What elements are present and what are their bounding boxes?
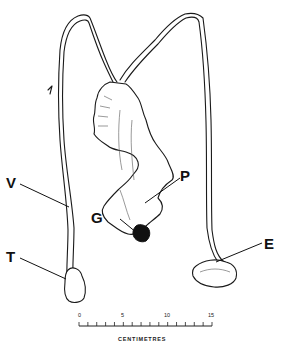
leader-V [20, 184, 69, 207]
scale-bar: 0 5 10 15 CENTIMETRES [78, 312, 214, 342]
label-G: G [91, 209, 103, 226]
scale-unit-label: CENTIMETRES [118, 336, 166, 342]
dark-terminal-G [133, 225, 150, 242]
anatomical-diagram: V P G T E 0 5 10 15 CENTIMETRES [0, 0, 288, 344]
left-terminal-T [65, 268, 86, 302]
label-T: T [6, 248, 15, 265]
label-P: P [180, 167, 190, 184]
right-terminal-E [193, 260, 237, 287]
leader-E [216, 243, 262, 262]
central-gland [93, 82, 173, 234]
scale-tick-0: 0 [78, 312, 81, 318]
left-duct [48, 15, 117, 290]
leader-T [20, 258, 66, 279]
scale-tick-5: 5 [121, 312, 124, 318]
label-E: E [264, 235, 274, 252]
label-V: V [6, 174, 16, 191]
scale-tick-10: 10 [164, 312, 170, 318]
scale-tick-15: 15 [208, 312, 214, 318]
